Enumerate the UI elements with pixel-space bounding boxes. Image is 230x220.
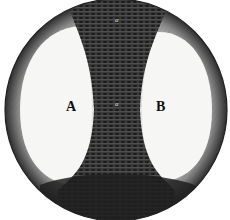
engraving-figure: A B a a: [0, 0, 230, 220]
label-b-right-lobe: B: [156, 100, 165, 114]
label-a-left-lobe: A: [66, 100, 76, 114]
sphere-illustration: [0, 0, 230, 220]
label-top-a: a: [115, 17, 119, 24]
label-center-a: a: [115, 101, 119, 108]
